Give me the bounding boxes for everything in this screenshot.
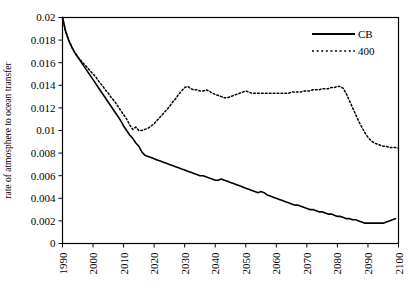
x-tick-label: 2010 (118, 252, 130, 275)
data-series-group (63, 18, 399, 224)
x-tick-label: 2070 (301, 252, 313, 275)
legend-label-cb: CB (358, 28, 373, 40)
y-tick-label: 0 (50, 237, 56, 249)
x-tick-label: 1990 (57, 252, 69, 275)
x-tick-label: 2080 (331, 252, 343, 275)
y-tick-label: 0.006 (31, 170, 56, 182)
y-axis-ticks: 00.0020.0040.0060.0080.010.0120.0140.016… (31, 11, 63, 249)
plot-frame (63, 18, 399, 244)
line-chart: 00.0020.0040.0060.0080.010.0120.0140.016… (0, 0, 413, 293)
y-tick-label: 0.014 (31, 79, 56, 91)
y-tick-label: 0.004 (31, 192, 56, 204)
y-tick-label: 0.002 (31, 215, 56, 227)
x-tick-label: 2100 (393, 252, 405, 275)
x-tick-label: 2020 (148, 252, 160, 275)
x-tick-label: 2030 (179, 252, 191, 275)
x-tick-label: 2060 (270, 252, 282, 275)
y-tick-label: 0.018 (31, 34, 56, 46)
y-tick-label: 0.01 (36, 124, 55, 136)
x-tick-label: 2040 (209, 252, 221, 275)
x-axis-ticks: 1990200020102020203020402050206020702080… (57, 244, 405, 275)
y-axis-label: rate of atmosphere to ocean transfer (3, 61, 13, 198)
legend-label-400: 400 (358, 45, 375, 57)
x-tick-label: 2090 (362, 252, 374, 275)
chart-legend: CB400 (312, 28, 375, 57)
series-line-cb (63, 18, 396, 224)
y-tick-label: 0.02 (36, 11, 55, 23)
plot-border (63, 18, 399, 244)
y-axis-title: rate of atmosphere to ocean transfer (3, 61, 13, 198)
series-line-400 (63, 18, 399, 149)
y-tick-label: 0.008 (31, 147, 56, 159)
x-tick-label: 2000 (87, 252, 99, 275)
y-tick-label: 0.016 (31, 57, 56, 69)
x-tick-label: 2050 (240, 252, 252, 275)
y-tick-label: 0.012 (31, 102, 56, 114)
chart-container: 00.0020.0040.0060.0080.010.0120.0140.016… (0, 0, 413, 293)
